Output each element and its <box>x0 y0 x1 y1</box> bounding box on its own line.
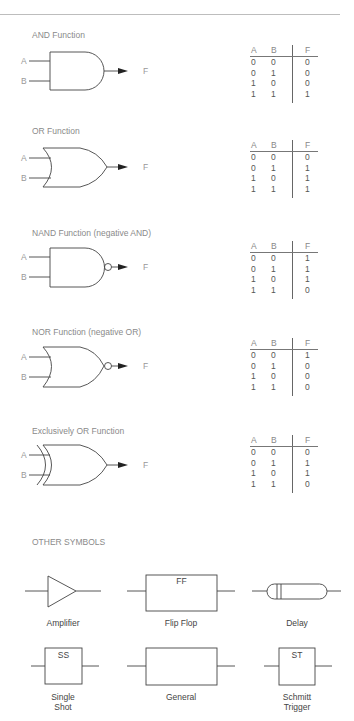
nand-inverter-bubble-icon <box>105 264 112 271</box>
schmitt-trigger-inner-label: ST <box>292 650 303 660</box>
and-output-label: F <box>143 66 148 76</box>
and-input-a-label: A <box>21 56 27 66</box>
flip-flop-symbol: FF <box>127 575 235 611</box>
flip-flop-inner-label: FF <box>176 576 186 586</box>
general-label: General <box>141 692 221 702</box>
single-shot-symbol: SS <box>31 648 99 684</box>
gate-diagrams: A B F A B F A B F A B <box>0 0 354 721</box>
flip-flop-label: Flip Flop <box>141 618 221 628</box>
or-output-arrow-icon <box>118 164 128 170</box>
single-shot-inner-label: SS <box>58 650 70 660</box>
nor-output-arrow-icon <box>118 363 128 369</box>
xor-output-arrow-icon <box>118 462 128 468</box>
nand-output-arrow-icon <box>118 264 128 270</box>
xor-output-label: F <box>143 460 148 470</box>
delay-symbol <box>252 584 341 599</box>
schmitt-trigger-label: Schmitt Trigger <box>257 692 337 712</box>
general-symbol <box>127 648 235 685</box>
nor-input-a-label: A <box>21 352 27 362</box>
nor-output-label: F <box>143 361 148 371</box>
nand-input-a-label: A <box>21 252 27 262</box>
xor-input-b-label: B <box>21 470 27 480</box>
amplifier-symbol <box>25 576 101 607</box>
nor-gate-symbol: A B F <box>21 347 148 387</box>
amplifier-label: Amplifier <box>23 618 103 628</box>
nor-input-b-label: B <box>21 372 27 382</box>
schmitt-trigger-symbol: ST <box>264 648 332 685</box>
nand-gate-symbol: A B F <box>21 248 148 287</box>
delay-label: Delay <box>257 618 337 628</box>
or-input-a-label: A <box>21 153 27 163</box>
nor-inverter-bubble-icon <box>105 363 112 370</box>
and-gate-symbol: A B F <box>21 52 148 90</box>
xor-gate-symbol: A B F <box>21 445 148 485</box>
nand-output-label: F <box>143 262 148 272</box>
xor-input-a-label: A <box>21 450 27 460</box>
or-output-label: F <box>143 162 148 172</box>
and-input-b-label: B <box>21 76 27 86</box>
or-input-b-label: B <box>21 173 27 183</box>
or-gate-symbol: A B F <box>21 148 148 187</box>
nand-input-b-label: B <box>21 272 27 282</box>
single-shot-label: Single Shot <box>23 692 103 712</box>
and-output-arrow-icon <box>118 68 128 74</box>
